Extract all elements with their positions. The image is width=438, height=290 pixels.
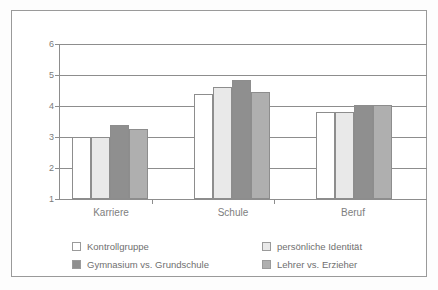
bar-beruf-series-3 bbox=[373, 105, 392, 199]
y-tick-5: 5 bbox=[34, 71, 54, 80]
x-tick-schule bbox=[274, 199, 275, 204]
x-label-karriere: Karriere bbox=[70, 207, 152, 219]
y-tick-4: 4 bbox=[34, 102, 54, 111]
bar-schule-series-3 bbox=[251, 92, 270, 199]
bar-karriere-series-1 bbox=[91, 137, 110, 199]
y-tick-3: 3 bbox=[34, 133, 54, 142]
y-tick-1: 1 bbox=[34, 195, 54, 204]
x-axis-line bbox=[59, 199, 427, 200]
y-axis-tick-labels: 6 5 4 3 2 1 bbox=[32, 44, 54, 200]
legend-swatch-icon-persoenliche-identitaet bbox=[262, 242, 271, 251]
chart-frame: 6 5 4 3 2 1 Karriere Schu bbox=[11, 10, 427, 277]
x-label-beruf: Beruf bbox=[312, 207, 394, 219]
bar-beruf-series-2 bbox=[354, 105, 373, 199]
y-tick-2: 2 bbox=[34, 164, 54, 173]
bar-schule-series-1 bbox=[213, 87, 232, 199]
bar-schule-series-2 bbox=[232, 80, 251, 199]
legend-label-kontrollgruppe: Kontrollgruppe bbox=[87, 241, 149, 252]
bar-beruf-series-0 bbox=[316, 112, 335, 199]
bar-karriere-series-0 bbox=[72, 137, 91, 199]
bar-karriere-series-2 bbox=[110, 125, 129, 199]
bar-karriere-series-3 bbox=[129, 129, 148, 199]
legend-swatch-icon-kontrollgruppe bbox=[72, 242, 81, 251]
legend-swatch-icon-lehrer-vs-erzieher bbox=[262, 260, 271, 269]
legend-swatch-icon-gymnasium-vs-grundschule bbox=[72, 260, 81, 269]
legend-label-lehrer-vs-erzieher: Lehrer vs. Erzieher bbox=[277, 259, 357, 270]
legend-item-kontrollgruppe: Kontrollgruppe bbox=[72, 239, 149, 254]
legend-item-gymnasium-vs-grundschule: Gymnasium vs. Grundschule bbox=[72, 257, 209, 272]
bar-beruf-series-1 bbox=[335, 112, 354, 199]
chart-legend: Kontrollgruppe Gymnasium vs. Grundschule… bbox=[72, 239, 422, 275]
bars-layer bbox=[59, 44, 427, 199]
bar-schule-series-0 bbox=[194, 94, 213, 199]
legend-label-gymnasium-vs-grundschule: Gymnasium vs. Grundschule bbox=[87, 259, 209, 270]
x-tick-karriere bbox=[152, 199, 153, 204]
plot-area bbox=[59, 44, 427, 199]
legend-label-persoenliche-identitaet: persönliche Identität bbox=[277, 241, 362, 252]
legend-item-lehrer-vs-erzieher: Lehrer vs. Erzieher bbox=[262, 257, 357, 272]
chart-figure: 6 5 4 3 2 1 Karriere Schu bbox=[0, 0, 438, 290]
legend-item-persoenliche-identitaet: persönliche Identität bbox=[262, 239, 362, 254]
x-label-schule: Schule bbox=[192, 207, 274, 219]
y-tick-6: 6 bbox=[34, 40, 54, 49]
